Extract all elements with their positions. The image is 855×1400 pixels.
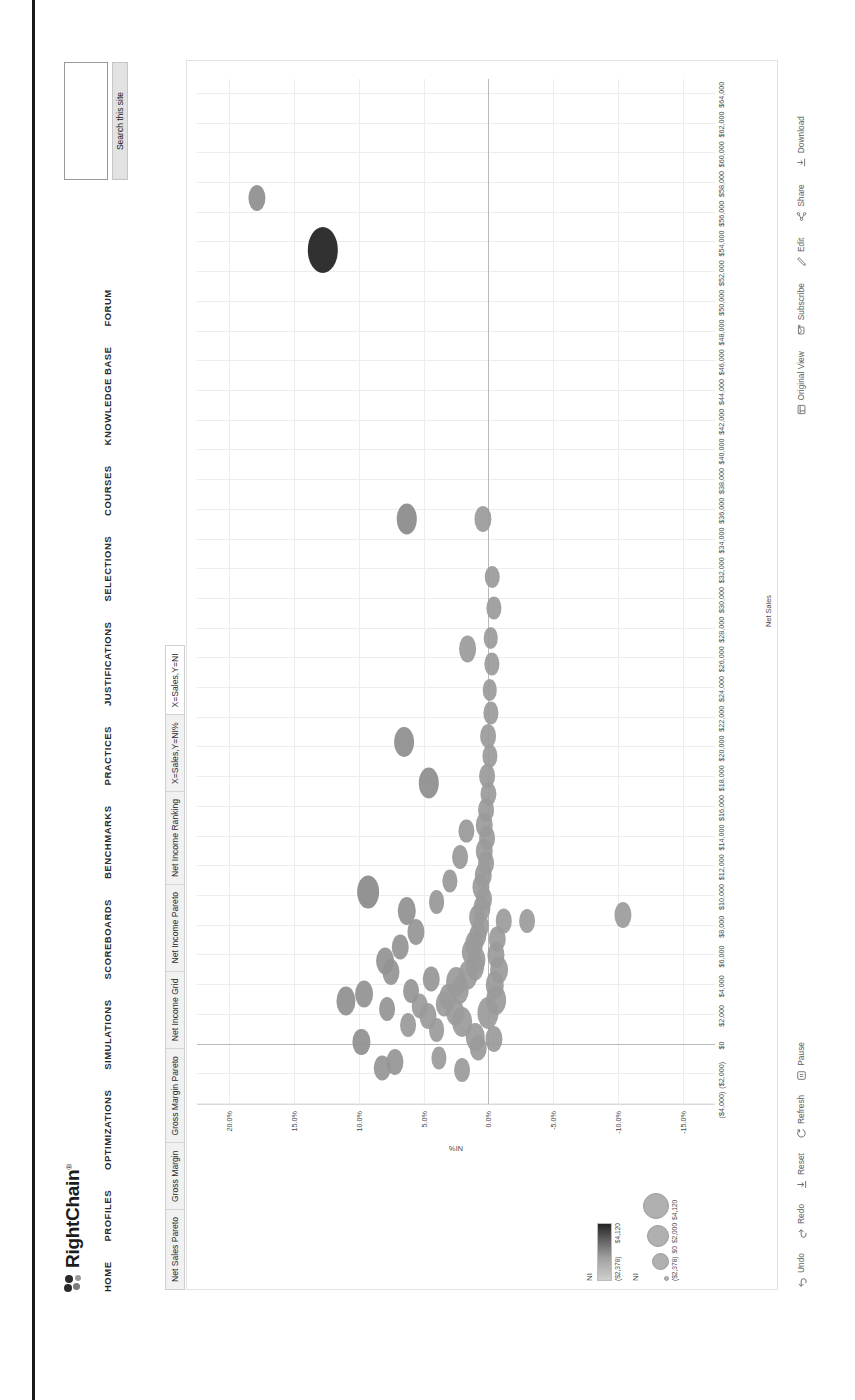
pause-button[interactable]: Pause <box>796 1042 807 1081</box>
edit-button[interactable]: Edit <box>796 238 807 267</box>
color-legend: NI ($2,378) $4,120 <box>585 1153 621 1281</box>
nav-item-simulations[interactable]: SIMULATIONS <box>102 1000 113 1070</box>
size-legend-title: NI <box>631 1153 640 1281</box>
gridline-vertical <box>197 1103 715 1104</box>
nav-item-optimizations[interactable]: OPTIMIZATIONS <box>102 1090 113 1170</box>
data-bubble[interactable] <box>459 819 474 842</box>
data-bubble[interactable] <box>519 909 535 933</box>
data-bubble[interactable] <box>485 1026 502 1052</box>
data-bubble[interactable] <box>455 1058 471 1082</box>
tab-x-sales-y-ni[interactable]: X=Sales,Y=NI <box>166 646 184 714</box>
redo-button[interactable]: Redo <box>796 1204 807 1239</box>
nav-item-profiles[interactable]: PROFILES <box>102 1190 113 1242</box>
original-view-button[interactable]: Original View <box>796 351 807 415</box>
x-tick-label: ($4,000) <box>717 1092 726 1119</box>
data-bubble[interactable] <box>475 506 492 532</box>
data-bubble[interactable] <box>392 934 409 959</box>
search-button[interactable]: Search this site <box>112 62 128 180</box>
nav-item-knowledge-base[interactable]: KNOWLEDGE BASE <box>102 347 113 446</box>
x-tick-label: $6,000 <box>717 945 726 967</box>
data-bubble[interactable] <box>429 890 445 914</box>
data-bubble[interactable] <box>459 636 477 663</box>
x-tick-label: $52,000 <box>717 260 726 286</box>
x-tick-label: $50,000 <box>717 290 726 316</box>
undo-button[interactable]: Undo <box>796 1253 807 1288</box>
refresh-button[interactable]: Refresh <box>796 1095 807 1139</box>
nav-item-justifications[interactable]: JUSTIFICATIONS <box>102 622 113 706</box>
viz-toolbar-right: Original View Subscribe Edit Share Downl… <box>790 116 812 415</box>
data-bubble[interactable] <box>397 503 417 534</box>
data-bubble[interactable] <box>400 1013 416 1037</box>
tab-x-sales-y-ni-pct[interactable]: X=Sales,Y=NI% <box>166 714 184 791</box>
gridline-vertical <box>197 806 715 807</box>
data-bubble[interactable] <box>432 1046 447 1069</box>
data-bubble[interactable] <box>485 653 500 676</box>
data-bubble[interactable] <box>614 902 631 928</box>
data-bubble[interactable] <box>470 1035 487 1060</box>
data-bubble[interactable] <box>419 768 439 799</box>
viz-toolbar-left: Undo Redo Reset Refresh Pause <box>790 1042 812 1288</box>
subscribe-button[interactable]: Subscribe <box>796 283 807 335</box>
data-bubble[interactable] <box>355 981 373 1008</box>
scatter-plot-canvas[interactable] <box>197 79 715 1105</box>
data-bubble[interactable] <box>423 967 440 992</box>
data-bubble[interactable] <box>357 875 379 908</box>
x-tick-label: $20,000 <box>717 735 726 761</box>
refresh-icon <box>796 1128 807 1139</box>
nav-item-scoreboards[interactable]: SCOREBOARDS <box>102 899 113 979</box>
tab-gross-margin-pareto[interactable]: Gross Margin Pareto <box>166 1048 184 1142</box>
nav-item-courses[interactable]: COURSES <box>102 465 113 515</box>
data-bubble[interactable] <box>307 227 337 273</box>
download-button[interactable]: Download <box>796 116 807 168</box>
search-input[interactable] <box>64 62 108 180</box>
data-bubble[interactable] <box>353 1029 370 1055</box>
tab-net-income-pareto[interactable]: Net Income Pareto <box>166 884 184 971</box>
reset-button[interactable]: Reset <box>796 1153 807 1190</box>
data-bubble[interactable] <box>482 679 497 701</box>
gridline-vertical <box>197 182 715 183</box>
main-navigation: HOME PROFILES OPTIMIZATIONS SIMULATIONS … <box>102 289 113 1292</box>
x-tick-label: $10,000 <box>717 884 726 910</box>
data-bubble[interactable] <box>485 566 500 588</box>
share-button[interactable]: Share <box>796 184 807 221</box>
redo-icon <box>796 1228 807 1239</box>
size-legend-dots <box>643 1153 669 1281</box>
data-bubble[interactable] <box>484 627 499 649</box>
data-bubble[interactable] <box>482 745 497 768</box>
gridline-horizontal <box>424 79 425 1104</box>
data-bubble[interactable] <box>379 997 395 1021</box>
rightchain-logo[interactable]: RightChain® <box>62 1164 84 1292</box>
data-bubble[interactable] <box>486 596 501 619</box>
redo-label: Redo <box>796 1204 806 1224</box>
nav-item-forum[interactable]: FORUM <box>102 289 113 326</box>
size-legend-label-1: ($2,378) <box>671 1256 678 1281</box>
data-bubble[interactable] <box>489 927 506 952</box>
site-search: Search this site <box>64 62 128 180</box>
x-tick-label: $16,000 <box>717 795 726 821</box>
nav-item-practices[interactable]: PRACTICES <box>102 726 113 785</box>
y-tick-label: 0.0% <box>484 1111 493 1127</box>
data-bubble[interactable] <box>248 185 265 211</box>
nav-item-selections[interactable]: SELECTIONS <box>102 536 113 602</box>
data-bubble[interactable] <box>442 870 457 893</box>
data-bubble[interactable] <box>394 727 414 757</box>
tab-net-sales-pareto[interactable]: Net Sales Pareto <box>166 1209 184 1289</box>
data-bubble[interactable] <box>452 845 468 869</box>
nav-item-benchmarks[interactable]: BENCHMARKS <box>102 805 113 879</box>
y-axis-tick-labels: 20.0%15.0%10.0%5.0%0.0%-5.0%-10.0%-15.0% <box>197 1109 715 1143</box>
data-bubble[interactable] <box>407 919 424 945</box>
data-bubble[interactable] <box>483 702 498 725</box>
gridline-vertical <box>197 449 715 450</box>
chart-legends: NI ($2,378) $4,120 NI ($2,378) $0 <box>585 1153 688 1281</box>
tab-net-income-grid[interactable]: Net Income Grid <box>166 971 184 1049</box>
data-bubble[interactable] <box>403 979 419 1003</box>
data-bubble[interactable] <box>336 987 355 1016</box>
data-bubble[interactable] <box>374 1056 391 1081</box>
reset-label: Reset <box>796 1153 806 1175</box>
tab-net-income-ranking[interactable]: Net Income Ranking <box>166 791 184 884</box>
size-legend-dot-4 <box>643 1193 669 1219</box>
data-bubble[interactable] <box>376 948 394 975</box>
nav-item-home[interactable]: HOME <box>102 1262 113 1293</box>
data-bubble[interactable] <box>480 724 496 748</box>
tab-gross-margin[interactable]: Gross Margin <box>166 1142 184 1209</box>
